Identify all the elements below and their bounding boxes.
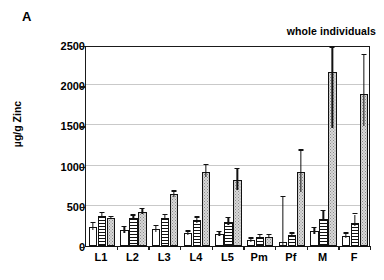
bar-pm-dotted[interactable] bbox=[265, 47, 274, 246]
y-tick-label: 2500 bbox=[41, 40, 85, 52]
bar-pm-open[interactable] bbox=[247, 47, 256, 246]
bar-rect bbox=[351, 223, 360, 246]
plot-area bbox=[85, 46, 370, 247]
bar-l3-open[interactable] bbox=[152, 47, 161, 246]
error-bar bbox=[174, 192, 175, 197]
bar-l2-dotted[interactable] bbox=[138, 47, 147, 246]
error-bar-cap-top bbox=[140, 208, 145, 209]
y-tick-label: 0 bbox=[41, 241, 85, 253]
chart-annotation: whole individuals bbox=[287, 25, 376, 37]
bar-rect bbox=[202, 172, 211, 246]
bar-l4-open[interactable] bbox=[184, 47, 193, 246]
x-tick-label-l1: L1 bbox=[85, 251, 117, 263]
error-bar bbox=[142, 209, 143, 214]
bar-pf-striped[interactable] bbox=[288, 47, 297, 246]
bar-l4-striped[interactable] bbox=[193, 47, 202, 246]
y-tick-label: 2000 bbox=[41, 80, 85, 92]
error-bar bbox=[251, 239, 252, 242]
bar-l4-dotted[interactable] bbox=[202, 47, 211, 246]
bar-group-l5 bbox=[213, 47, 245, 246]
bar-rect bbox=[161, 218, 170, 246]
error-bar bbox=[332, 48, 333, 128]
bar-l5-dotted[interactable] bbox=[233, 47, 242, 246]
error-bar bbox=[92, 223, 93, 230]
error-bar bbox=[291, 234, 292, 237]
error-bar-cap-top bbox=[353, 213, 358, 214]
error-bar bbox=[282, 197, 283, 245]
bar-l1-dotted[interactable] bbox=[107, 47, 116, 246]
error-bar bbox=[156, 226, 157, 232]
error-bar bbox=[196, 218, 197, 223]
bar-m-dotted[interactable] bbox=[328, 47, 337, 246]
bar-f-open[interactable] bbox=[342, 47, 351, 246]
error-bar bbox=[269, 235, 270, 237]
bar-l1-striped[interactable] bbox=[98, 47, 107, 246]
error-bar-cap-top bbox=[108, 216, 113, 217]
x-tick-label-f: F bbox=[338, 251, 370, 263]
error-bar bbox=[219, 232, 220, 236]
error-bar-cap-top bbox=[154, 225, 159, 226]
x-tick-label-l2: L2 bbox=[117, 251, 149, 263]
error-bar bbox=[187, 232, 188, 235]
bar-rect bbox=[319, 219, 328, 246]
bar-pf-dotted[interactable] bbox=[297, 47, 306, 246]
bar-group-pm bbox=[244, 47, 276, 246]
x-tick-label-l3: L3 bbox=[148, 251, 180, 263]
bar-rect bbox=[138, 212, 147, 246]
x-tick-label-pm: Pm bbox=[243, 251, 275, 263]
bar-l3-striped[interactable] bbox=[161, 47, 170, 246]
error-bar-cap-top bbox=[226, 217, 231, 218]
bar-rect bbox=[265, 237, 274, 246]
error-bar-cap-top bbox=[122, 226, 127, 227]
error-bar-cap-top bbox=[280, 196, 285, 197]
bar-pm-striped[interactable] bbox=[256, 47, 265, 246]
error-bar bbox=[205, 165, 206, 177]
bar-l2-striped[interactable] bbox=[129, 47, 138, 246]
error-bar-cap-top bbox=[217, 231, 222, 232]
error-bar-cap-top bbox=[258, 234, 263, 235]
x-tick-label-m: M bbox=[307, 251, 339, 263]
error-bar bbox=[323, 211, 324, 221]
bar-f-dotted[interactable] bbox=[360, 47, 369, 246]
error-bar-cap-top bbox=[203, 164, 208, 165]
error-bar bbox=[300, 151, 301, 193]
error-bar bbox=[346, 234, 347, 238]
bar-l5-open[interactable] bbox=[215, 47, 224, 246]
bar-rect bbox=[98, 216, 107, 246]
bar-l5-striped[interactable] bbox=[224, 47, 233, 246]
error-bar bbox=[124, 227, 125, 232]
bar-rect bbox=[224, 222, 233, 246]
error-bar-cap-top bbox=[267, 234, 272, 235]
bar-l1-open[interactable] bbox=[89, 47, 98, 246]
bar-groups bbox=[86, 47, 369, 246]
y-axis-label: µg/g Zinc bbox=[11, 84, 23, 164]
error-bar bbox=[260, 235, 261, 238]
bar-l3-dotted[interactable] bbox=[170, 47, 179, 246]
error-bar bbox=[355, 215, 356, 226]
error-bar bbox=[237, 169, 238, 190]
y-tick-label: 1500 bbox=[41, 120, 85, 132]
figure-panel-a: A whole individuals µg/g Zinc 0500100015… bbox=[0, 0, 384, 280]
bar-l2-open[interactable] bbox=[120, 47, 129, 246]
error-bar-cap-top bbox=[362, 54, 367, 55]
error-bar bbox=[364, 55, 365, 127]
error-bar-cap-top bbox=[298, 149, 303, 150]
bar-group-l4 bbox=[181, 47, 213, 246]
bar-m-striped[interactable] bbox=[319, 47, 328, 246]
x-tick-mark bbox=[148, 246, 149, 250]
x-tick-mark bbox=[370, 246, 371, 250]
bar-pf-open[interactable] bbox=[279, 47, 288, 246]
error-bar-cap-top bbox=[249, 237, 254, 238]
bar-f-striped[interactable] bbox=[351, 47, 360, 246]
x-tick-label-l5: L5 bbox=[212, 251, 244, 263]
bar-rect bbox=[193, 220, 202, 246]
error-bar-cap-top bbox=[344, 232, 349, 233]
bar-m-open[interactable] bbox=[310, 47, 319, 246]
error-bar bbox=[165, 215, 166, 220]
error-bar bbox=[133, 216, 134, 221]
error-bar bbox=[110, 217, 111, 219]
bar-rect bbox=[184, 233, 193, 246]
x-tick-mark bbox=[307, 246, 308, 250]
x-tick-label-pf: Pf bbox=[275, 251, 307, 263]
error-bar-cap-top bbox=[99, 212, 104, 213]
